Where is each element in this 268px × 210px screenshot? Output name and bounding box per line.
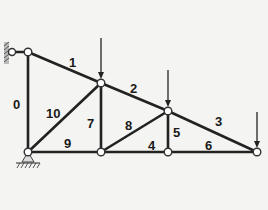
member-label-10: 10 xyxy=(46,106,60,121)
member-label-2: 2 xyxy=(130,81,137,96)
node-D xyxy=(97,148,105,156)
member-label-8: 8 xyxy=(125,118,132,133)
node-E xyxy=(164,148,172,156)
node-C xyxy=(164,107,172,115)
member-1 xyxy=(28,52,101,83)
member-3 xyxy=(168,111,257,152)
member-label-9: 9 xyxy=(64,136,71,151)
node-A xyxy=(24,48,32,56)
load-arrow-icon xyxy=(254,112,260,148)
load-arrow-icon xyxy=(165,70,171,107)
node-G xyxy=(24,148,32,156)
member-label-3: 3 xyxy=(215,114,222,129)
member-label-7: 7 xyxy=(87,116,94,131)
truss-diagram: 012345678910 xyxy=(0,0,268,210)
member-8 xyxy=(101,111,168,152)
member-label-1: 1 xyxy=(69,55,76,70)
truss-members xyxy=(28,52,257,152)
member-label-5: 5 xyxy=(173,125,180,140)
wall-hinge-node xyxy=(9,49,16,56)
member-label-6: 6 xyxy=(205,138,212,153)
member-label-0: 0 xyxy=(13,97,20,112)
load-arrow-icon xyxy=(98,38,104,79)
member-label-4: 4 xyxy=(148,138,156,153)
node-B xyxy=(97,79,105,87)
node-F xyxy=(253,148,261,156)
